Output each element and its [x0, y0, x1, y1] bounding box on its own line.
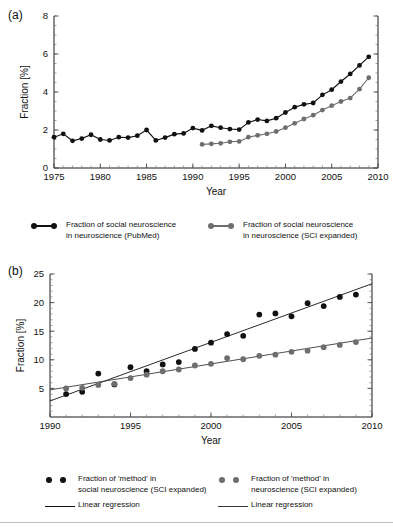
data-point: [292, 105, 297, 110]
legend-regression-neuro: Linear regression: [215, 500, 313, 512]
data-point: [283, 125, 288, 130]
x-axis-title: Year: [201, 435, 222, 446]
x-tick-label: 2000: [200, 420, 221, 431]
data-point: [160, 361, 166, 367]
y-tick-label: 8: [43, 10, 48, 21]
y-tick-label: 5: [39, 383, 44, 394]
data-point: [256, 312, 262, 318]
data-point: [255, 133, 260, 138]
data-point: [292, 121, 297, 126]
data-point: [128, 364, 134, 370]
data-point: [240, 333, 246, 339]
data-point: [200, 142, 205, 147]
data-point: [208, 340, 214, 346]
legend-label: Fraction of social neuroscience in neuro…: [243, 220, 357, 241]
data-point: [70, 138, 75, 143]
y-axis-title: Fraction [%]: [15, 319, 26, 373]
y-tick-label: 25: [33, 268, 44, 279]
data-point: [126, 135, 131, 140]
data-point: [348, 72, 353, 77]
data-point: [366, 54, 371, 59]
data-point: [273, 352, 279, 358]
legend-regression-social: Linear regression: [42, 500, 140, 512]
legend-sci-expanded: Fraction of social neuroscience in neuro…: [205, 220, 357, 241]
legend-symbol: [42, 501, 82, 512]
panel-b-legend: Fraction of 'method' in social neuroscie…: [0, 472, 393, 530]
data-point: [116, 135, 121, 140]
data-point: [265, 131, 270, 136]
legend-line-swatch: [45, 506, 75, 507]
data-point: [218, 125, 223, 130]
legend-symbol: [28, 221, 68, 232]
data-point: [153, 138, 158, 143]
y-tick-label: 20: [33, 297, 44, 308]
data-point: [209, 123, 214, 128]
data-point: [128, 375, 134, 381]
x-axis-title: Year: [206, 186, 227, 197]
data-point: [246, 120, 251, 125]
y-tick-label: 4: [43, 86, 48, 97]
legend-label: Fraction of 'method' in neuroscience (SC…: [251, 474, 357, 495]
figure-bottom-divider: [0, 522, 393, 523]
panel-b-plot: 19901995200020052010510152025YearFractio…: [0, 262, 393, 467]
data-point: [63, 391, 69, 397]
data-point: [200, 128, 205, 133]
legend-pubmed: Fraction of social neuroscience in neuro…: [28, 220, 176, 241]
legend-method-neuro: Fraction of 'method' in neuroscience (SC…: [215, 474, 357, 495]
panel-a-plot: 1975198019851990199520002005201002468Yea…: [0, 0, 393, 215]
legend-dot-icon: [46, 477, 52, 483]
data-point: [227, 139, 232, 144]
data-point: [192, 363, 198, 369]
x-tick-label: 2010: [367, 171, 388, 182]
legend-dot-icon: [51, 223, 57, 229]
data-point: [289, 349, 295, 355]
chart-panel-a: (a) 197519801985199019952000200520100246…: [0, 0, 393, 215]
data-point: [353, 292, 359, 298]
y-tick-label: 15: [33, 326, 44, 337]
data-point: [95, 371, 101, 377]
legend-dot-icon: [228, 223, 234, 229]
x-tick-label: 1990: [39, 420, 60, 431]
data-point: [209, 141, 214, 146]
data-point: [366, 75, 371, 80]
legend-dot-icon: [219, 477, 225, 483]
x-tick-label: 2005: [321, 171, 342, 182]
data-point: [98, 137, 103, 142]
y-axis-title: Fraction [%]: [19, 65, 30, 119]
data-point: [357, 63, 362, 68]
data-point: [237, 139, 242, 144]
data-point: [172, 132, 177, 137]
data-point: [329, 103, 334, 108]
legend-symbol: [42, 475, 82, 486]
x-tick-label: 2000: [275, 171, 296, 182]
data-point: [256, 353, 262, 359]
data-point: [163, 135, 168, 140]
panel-b-label: (b): [8, 264, 23, 278]
data-point: [305, 348, 311, 354]
x-tick-label: 1980: [90, 171, 111, 182]
data-point: [339, 99, 344, 104]
data-point: [255, 117, 260, 122]
figure: (a) 197519801985199019952000200520100246…: [0, 0, 393, 530]
chart-panel-b: (b) 19901995200020052010510152025YearFra…: [0, 262, 393, 467]
data-point: [95, 382, 101, 388]
legend-label: Linear regression: [78, 500, 140, 511]
data-point: [353, 339, 359, 345]
data-point: [107, 138, 112, 143]
legend-dot-icon: [60, 477, 66, 483]
data-point: [176, 367, 182, 373]
data-point: [321, 303, 327, 309]
panel-a-legend: Fraction of social neuroscience in neuro…: [0, 218, 393, 260]
y-tick-label: 6: [43, 48, 48, 59]
data-point: [337, 294, 343, 300]
data-point: [227, 127, 232, 132]
legend-label: Fraction of 'method' in social neuroscie…: [78, 474, 207, 495]
legend-method-social: Fraction of 'method' in social neuroscie…: [42, 474, 207, 495]
data-point: [289, 313, 295, 319]
data-point: [52, 135, 57, 140]
legend-dot-icon: [208, 223, 214, 229]
data-point: [224, 355, 230, 361]
data-point: [320, 108, 325, 113]
legend-dot-icon: [31, 223, 37, 229]
legend-symbol: [215, 501, 255, 512]
